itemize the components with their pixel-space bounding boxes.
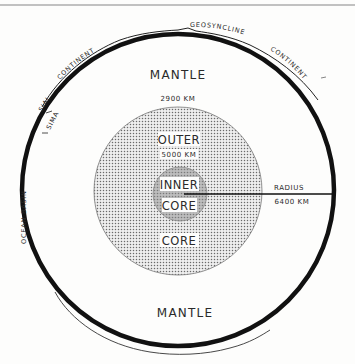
mantle-depth-label: 2900 KM xyxy=(161,95,196,103)
ocean-basin-label: OCEAN BASIN xyxy=(20,190,28,244)
outer-core-label: OUTER xyxy=(158,133,200,147)
inner-core-label-line1: INNER xyxy=(160,178,198,192)
inner-core-label-line2: CORE xyxy=(162,199,196,213)
outer-core-bottom-label: CORE xyxy=(162,234,196,248)
radius-value-label: 6400 KM xyxy=(275,198,310,206)
diagram-canvas: MANTLE 2900 KM OUTER 5000 KM INNER CORE … xyxy=(0,0,355,364)
mantle-top-label: MANTLE xyxy=(150,68,206,82)
radius-label: RADIUS xyxy=(274,184,304,192)
earth-structure-diagram: MANTLE 2900 KM OUTER 5000 KM INNER CORE … xyxy=(0,0,355,364)
mantle-bottom-label: MANTLE xyxy=(157,306,213,320)
stray-mark xyxy=(321,77,326,78)
inner-core-depth-label: 5000 KM xyxy=(162,151,197,159)
